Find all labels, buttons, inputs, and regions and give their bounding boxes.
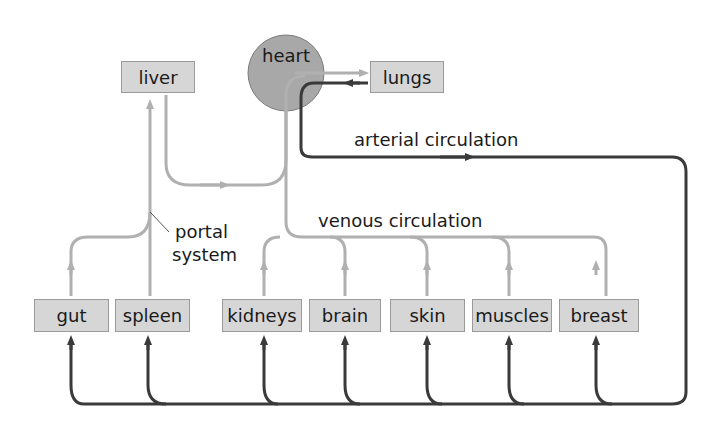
skin-node: skin [390,299,465,332]
portal-label: portal [175,222,228,242]
venous-lines [71,73,606,296]
breast-node: breast [559,299,639,332]
system-label: system [172,245,237,265]
muscles-node: muscles [472,299,552,332]
lungs-node: lungs [370,61,444,93]
heart-label: heart [262,45,310,66]
arterial-circulation-label: arterial circulation [354,130,518,150]
kidneys-node: kidneys [222,299,302,332]
spleen-node: spleen [115,299,190,332]
portal-pointer [150,212,169,232]
liver-node: liver [121,61,195,93]
gut-node: gut [34,299,109,332]
brain-node: brain [309,299,381,332]
venous-circulation-label: venous circulation [318,211,482,231]
